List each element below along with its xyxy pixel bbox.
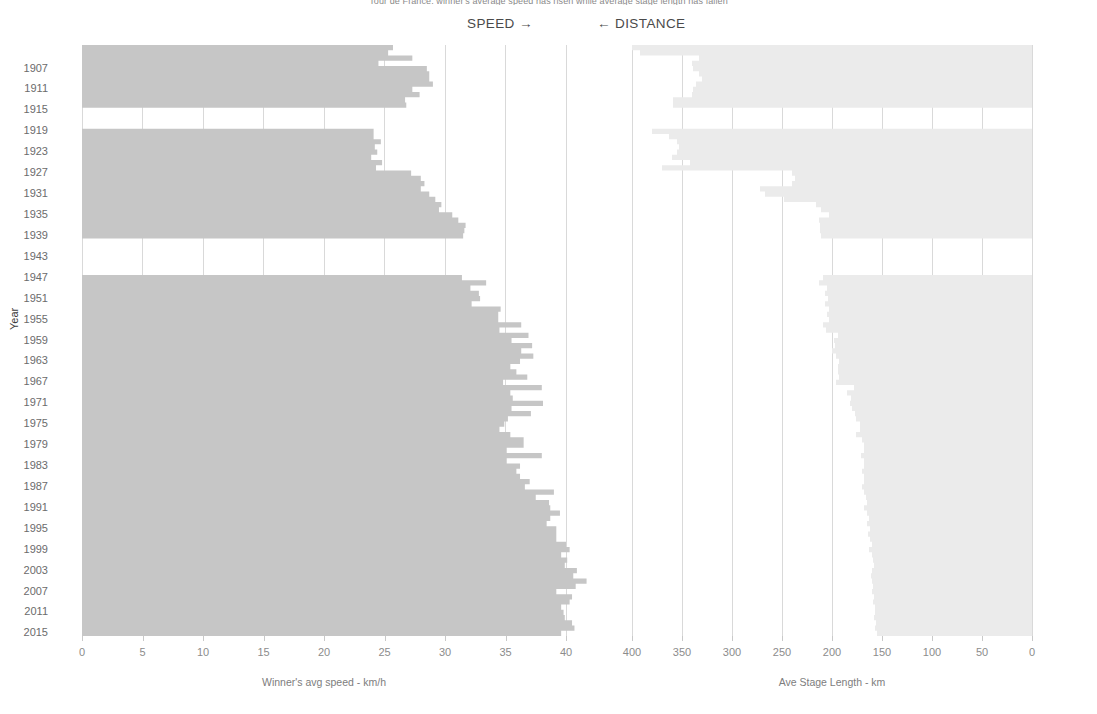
axis-tick-mark — [782, 636, 783, 641]
year-tick-label: 1923 — [24, 146, 48, 157]
distance-area-chart — [632, 45, 1032, 636]
axis-tick-label: 5 — [139, 646, 145, 658]
axis-tick-label: 400 — [623, 646, 641, 658]
year-tick-label: 1991 — [24, 502, 48, 513]
year-tick-label: 2015 — [24, 627, 48, 638]
year-tick-label: 1971 — [24, 397, 48, 408]
axis-tick-label: 30 — [439, 646, 451, 658]
axis-tick-label: 0 — [1029, 646, 1035, 658]
year-tick-label: 1963 — [24, 355, 48, 366]
axis-tick-mark — [882, 636, 883, 641]
year-tick-label: 1983 — [24, 460, 48, 471]
year-tick-label: 1939 — [24, 230, 48, 241]
year-tick-label: 2007 — [24, 586, 48, 597]
year-tick-label: 1999 — [24, 544, 48, 555]
axis-tick-mark — [203, 636, 204, 641]
axis-tick-mark — [566, 636, 567, 641]
year-tick-label: 2003 — [24, 565, 48, 576]
axis-tick-label: 100 — [923, 646, 941, 658]
axis-tick-label: 0 — [79, 646, 85, 658]
area-series — [82, 275, 587, 636]
distance-direction-label: ← DISTANCE — [597, 16, 686, 31]
year-tick-label: 1907 — [24, 63, 48, 74]
axis-tick-label: 300 — [723, 646, 741, 658]
speed-axis-title: Winner's avg speed - km/h — [82, 676, 566, 688]
year-tick-label: 1987 — [24, 481, 48, 492]
year-tick-label: 1919 — [24, 125, 48, 136]
year-tick-label: 1931 — [24, 188, 48, 199]
speed-direction-label: SPEED → — [467, 16, 533, 31]
area-series — [819, 275, 1032, 636]
area-series — [652, 129, 1032, 239]
year-tick-label: 1943 — [24, 251, 48, 262]
axis-tick-label: 150 — [873, 646, 891, 658]
axis-tick-label: 20 — [318, 646, 330, 658]
axis-tick-mark — [732, 636, 733, 641]
axis-tick-label: 10 — [197, 646, 209, 658]
year-tick-label: 1935 — [24, 209, 48, 220]
axis-tick-mark — [324, 636, 325, 641]
speed-area-chart — [82, 45, 566, 636]
axis-tick-mark — [932, 636, 933, 641]
axis-tick-label: 50 — [976, 646, 988, 658]
axis-tick-mark — [445, 636, 446, 641]
year-tick-label: 2011 — [24, 606, 48, 617]
axis-tick-mark — [682, 636, 683, 641]
year-tick-label: 1959 — [24, 335, 48, 346]
area-series — [82, 45, 433, 108]
year-tick-label: 1947 — [24, 272, 48, 283]
year-tick-label: 1975 — [24, 418, 48, 429]
axis-tick-mark — [264, 636, 265, 641]
year-tick-label: 1967 — [24, 376, 48, 387]
axis-tick-mark — [1032, 636, 1033, 641]
area-series — [82, 129, 466, 239]
axis-tick-mark — [632, 636, 633, 641]
axis-tick-label: 200 — [823, 646, 841, 658]
year-tick-label: 1911 — [24, 83, 48, 94]
year-axis-labels: 1907191119151919192319271931193519391943… — [0, 0, 72, 714]
axis-tick-label: 40 — [560, 646, 572, 658]
axis-tick-label: 250 — [773, 646, 791, 658]
axis-tick-mark — [82, 636, 83, 641]
axis-tick-mark — [385, 636, 386, 641]
distance-axis-title: Ave Stage Length - km — [632, 676, 1032, 688]
year-tick-label: 1951 — [24, 293, 48, 304]
year-tick-label: 1927 — [24, 167, 48, 178]
axis-tick-mark — [506, 636, 507, 641]
year-tick-label: 1915 — [24, 104, 48, 115]
chart-page: Tour de France: winner's average speed h… — [0, 0, 1097, 714]
axis-tick-label: 350 — [673, 646, 691, 658]
page-title: Tour de France: winner's average speed h… — [0, 0, 1097, 5]
axis-tick-label: 25 — [378, 646, 390, 658]
area-series — [632, 45, 1032, 108]
year-tick-label: 1995 — [24, 523, 48, 534]
axis-tick-mark — [982, 636, 983, 641]
year-tick-label: 1955 — [24, 314, 48, 325]
axis-tick-label: 35 — [499, 646, 511, 658]
axis-tick-mark — [143, 636, 144, 641]
axis-tick-mark — [832, 636, 833, 641]
year-tick-label: 1979 — [24, 439, 48, 450]
axis-tick-label: 15 — [257, 646, 269, 658]
